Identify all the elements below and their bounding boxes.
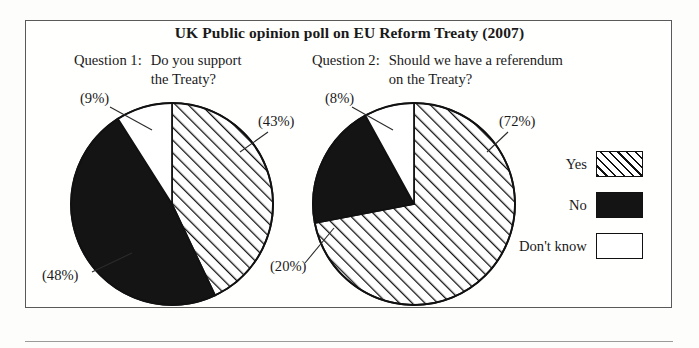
legend-swatch-no-solid-icon <box>596 192 643 218</box>
callout-q2-yes: (72%) <box>499 113 535 130</box>
callout-q1-yes: (43%) <box>258 113 294 130</box>
callout-q2-no: (20%) <box>270 258 306 275</box>
pie-chart-question-2 <box>308 98 520 310</box>
question-2-line-1: Should we have a referendum <box>389 52 563 68</box>
question-1-caption: Question 1:Do you supportthe Treaty? <box>74 51 242 89</box>
question-1-line-2: the Treaty? <box>151 70 242 89</box>
legend-item-no: No <box>519 191 643 219</box>
question-1-text: Do you supportthe Treaty? <box>142 51 242 89</box>
legend-swatch-dontknow-white-icon <box>596 233 643 259</box>
callout-q2-dontknow: (8%) <box>325 90 354 107</box>
page-title: UK Public opinion poll on EU Reform Trea… <box>0 24 699 42</box>
legend-label-yes: Yes <box>566 156 596 173</box>
page-rule <box>25 341 673 342</box>
question-1-label: Question 1: <box>74 51 142 70</box>
legend-label-no: No <box>569 197 596 214</box>
question-2-label: Question 2: <box>312 51 380 70</box>
question-2-line-2: on the Treaty? <box>389 70 563 89</box>
legend-item-dontknow: Don't know <box>519 232 643 260</box>
poll-figure: UK Public opinion poll on EU Reform Trea… <box>0 0 699 348</box>
legend-label-dontknow: Don't know <box>519 238 596 255</box>
callout-q1-no: (48%) <box>42 267 78 284</box>
legend-swatch-yes-hatched-icon <box>596 151 643 177</box>
pie-chart-question-1 <box>66 98 278 310</box>
question-2-text: Should we have a referendumon the Treaty… <box>380 51 563 89</box>
legend: Yes No Don't know <box>519 150 643 273</box>
question-2-caption: Question 2:Should we have a referendumon… <box>312 51 563 89</box>
question-1-line-1: Do you support <box>151 52 242 68</box>
legend-item-yes: Yes <box>519 150 643 178</box>
callout-q1-dontknow: (9%) <box>80 90 109 107</box>
